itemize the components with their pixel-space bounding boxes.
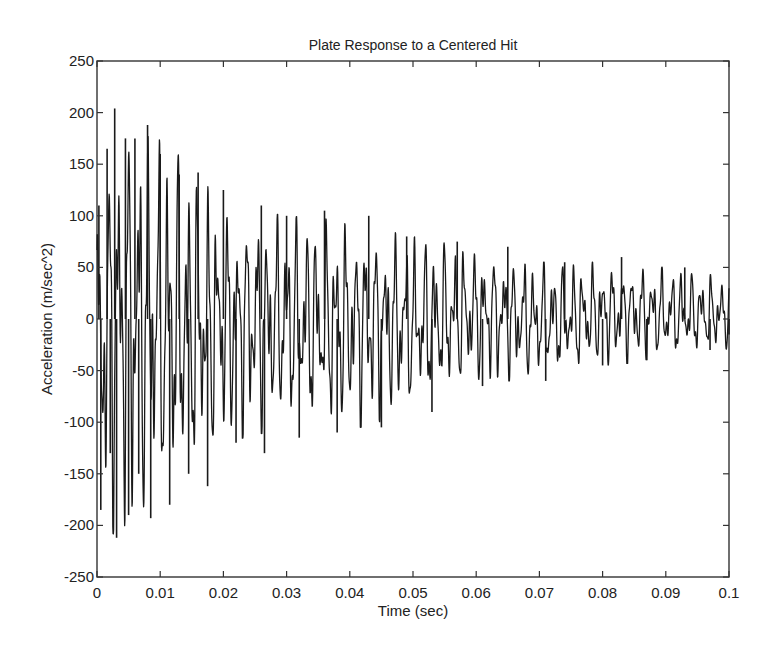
y-axis-label: Acceleration (m/sec^2) — [38, 243, 55, 395]
x-tick-label: 0.05 — [398, 584, 427, 601]
x-tick-label: 0.01 — [146, 584, 175, 601]
x-axis-label: Time (sec) — [378, 602, 448, 619]
plot-area — [97, 61, 729, 577]
y-tick-label: 150 — [69, 155, 94, 172]
y-tick-label: -250 — [64, 568, 94, 585]
x-tick-label: 0.02 — [209, 584, 238, 601]
y-tick-label: 50 — [77, 258, 94, 275]
line-chart: Plate Response to a Centered Hit 00.010.… — [0, 0, 774, 653]
x-tick-label: 0.09 — [651, 584, 680, 601]
y-tick-label: -100 — [64, 413, 94, 430]
y-tick-label: 100 — [69, 207, 94, 224]
y-tick-label: -200 — [64, 516, 94, 533]
y-tick-label: 250 — [69, 52, 94, 69]
y-tick-label: 0 — [86, 310, 94, 327]
y-tick-label: -50 — [72, 362, 94, 379]
x-tick-label: 0.06 — [462, 584, 491, 601]
x-tick-label: 0.07 — [525, 584, 554, 601]
y-tick-label: -150 — [64, 465, 94, 482]
y-tick-label: 200 — [69, 104, 94, 121]
chart-title: Plate Response to a Centered Hit — [309, 37, 518, 53]
x-tick-label: 0.03 — [272, 584, 301, 601]
x-tick-label: 0.04 — [335, 584, 364, 601]
x-tick-label: 0.1 — [719, 584, 740, 601]
x-tick-label: 0 — [93, 584, 101, 601]
x-tick-label: 0.08 — [588, 584, 617, 601]
